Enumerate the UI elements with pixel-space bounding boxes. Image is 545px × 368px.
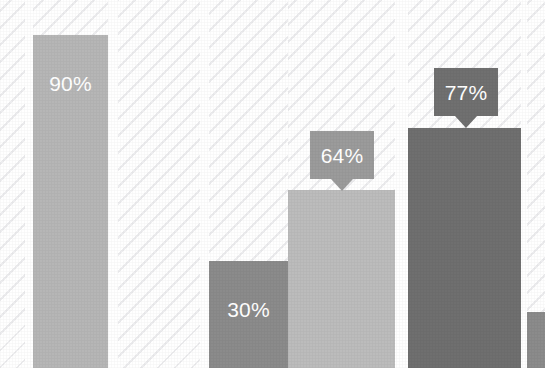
bar-value-label: 30% [209,299,288,320]
chart-track [118,0,200,368]
bar[interactable] [408,128,521,368]
bar[interactable] [527,312,545,368]
bar[interactable]: 30% [209,261,288,368]
bar[interactable] [288,190,395,368]
bar[interactable]: 90% [33,35,108,368]
bar-value-label: 90% [33,73,108,94]
callout-pointer-icon [455,116,477,128]
value-callout[interactable]: 64% [310,131,374,179]
chart-track [0,0,25,368]
value-callout[interactable]: 77% [434,68,498,116]
callout-pointer-icon [331,179,353,191]
bar-chart: 90%30% 64%77% [0,0,545,368]
